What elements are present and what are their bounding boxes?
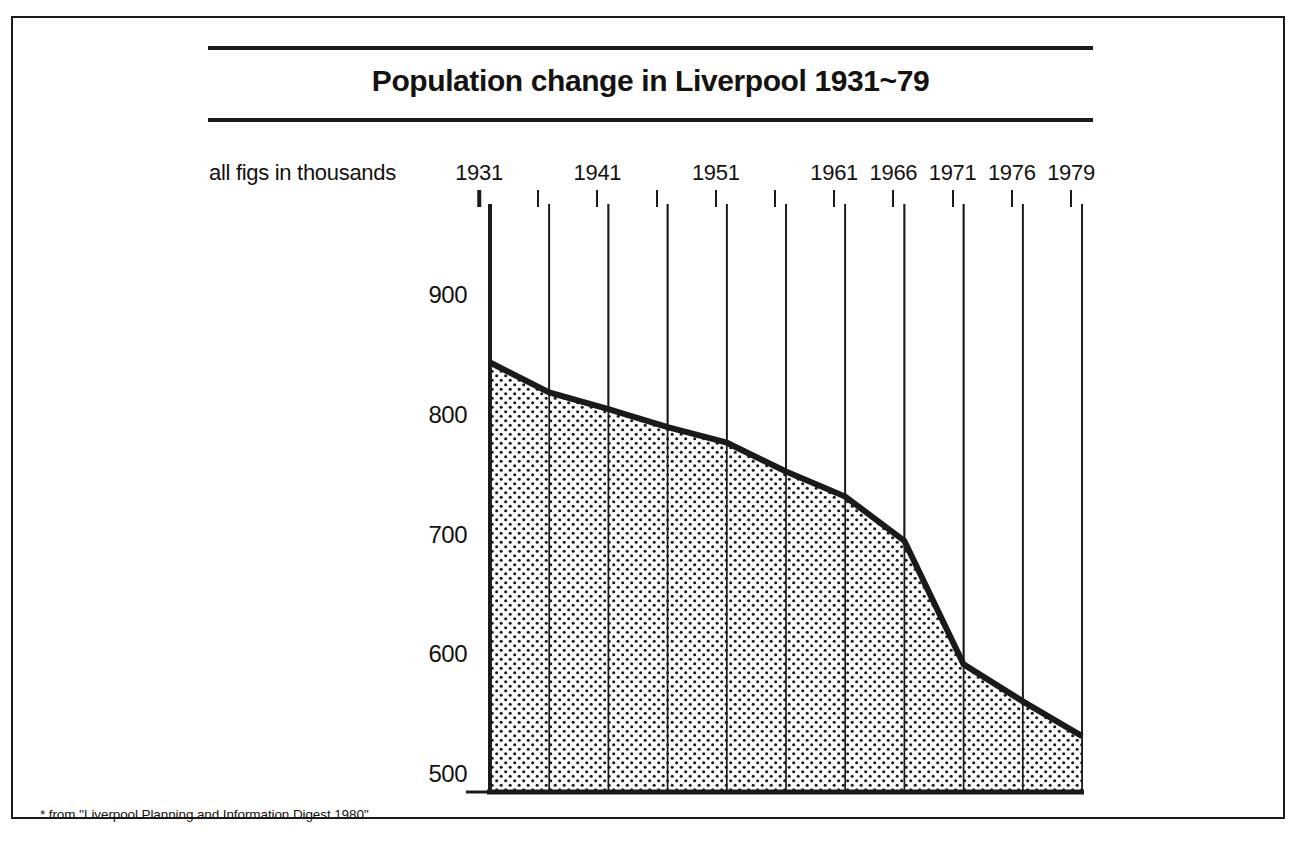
data-line	[490, 363, 1082, 737]
figure-frame: Population change in Liverpool 1931~79 a…	[11, 16, 1285, 819]
x-axis-label-1966: 1966	[870, 160, 918, 186]
units-note: all figs in thousands	[209, 160, 396, 186]
source-footnote: * from ''Liverpool Planning and Informat…	[40, 807, 369, 822]
page-title: Population change in Liverpool 1931~79	[208, 64, 1093, 98]
gridlines	[490, 204, 1082, 790]
y-axis-label-700: 700	[387, 521, 467, 549]
x-axis-tick-1979	[1070, 190, 1072, 207]
x-axis-tick-1971	[952, 190, 954, 207]
title-rule-top	[208, 46, 1093, 50]
x-axis-label-1941: 1941	[574, 160, 622, 186]
y-axis-label-800: 800	[387, 401, 467, 429]
x-axis-tick-1956	[774, 190, 776, 207]
x-axis-label-1931: 1931	[455, 160, 503, 186]
x-axis-tick-1941	[596, 190, 598, 207]
x-axis-label-1971: 1971	[929, 160, 977, 186]
x-axis-label-1976: 1976	[988, 160, 1036, 186]
area-fill	[490, 363, 1082, 791]
x-axis-tick-1946	[656, 190, 658, 207]
x-axis-tick-1951	[715, 190, 717, 207]
x-axis-label-1951: 1951	[692, 160, 740, 186]
gridlines-over-fill	[490, 204, 1082, 790]
y-axis-label-500: 500	[387, 760, 467, 788]
x-axis-label-1961: 1961	[810, 160, 858, 186]
y-axis-label-900: 900	[387, 281, 467, 309]
y-axis-label-600: 600	[387, 640, 467, 668]
title-rule-bottom	[208, 118, 1093, 122]
area-chart-plot	[13, 18, 1296, 852]
x-axis-tick-1966	[892, 190, 894, 207]
x-axis-label-1979: 1979	[1047, 160, 1095, 186]
x-axis-tick-1936	[537, 190, 539, 207]
x-axis-tick-1931	[477, 190, 481, 207]
x-axis-tick-1976	[1011, 190, 1013, 207]
x-axis-tick-1961	[833, 190, 835, 207]
